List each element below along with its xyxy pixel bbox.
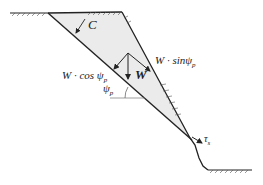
w-cos-text: W · cos <box>62 69 94 81</box>
w-sin-label: W · sinψp <box>155 55 196 69</box>
cohesion-label: C <box>88 18 97 31</box>
weight-label: W <box>135 68 147 81</box>
psi-symbol: ψ <box>103 82 110 94</box>
psi-symbol: ψ <box>97 69 104 81</box>
tau-subscript: s <box>208 139 211 147</box>
psi-subscript: p <box>192 61 196 69</box>
shear-label: τs <box>204 134 210 147</box>
w-sin-text: W · sin <box>155 54 185 66</box>
w-cos-label: W · cos ψp <box>62 70 107 84</box>
angle-label: ψp <box>103 83 113 97</box>
slope-diagram <box>0 0 263 185</box>
psi-subscript: p <box>110 89 114 97</box>
